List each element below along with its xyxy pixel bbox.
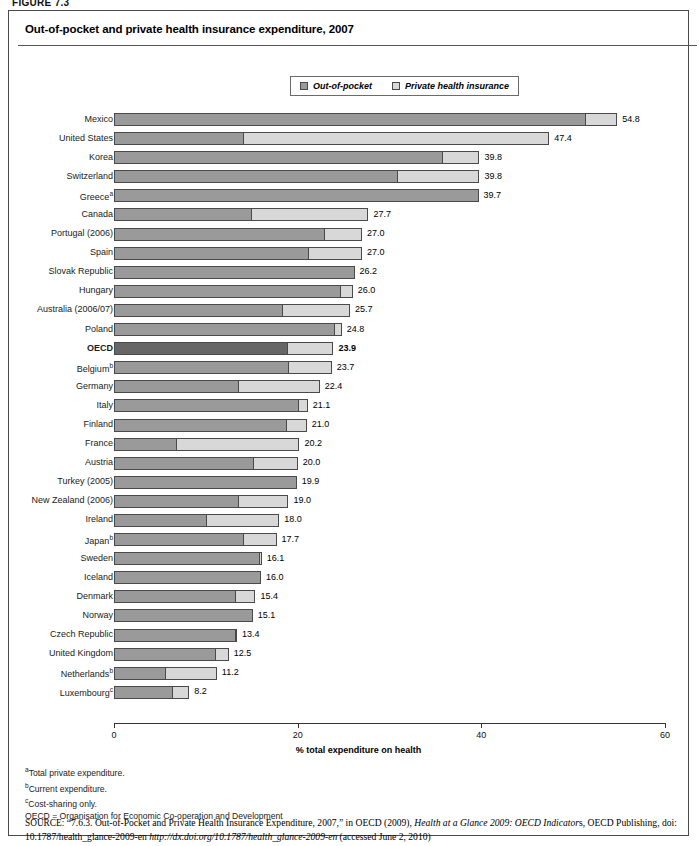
- bar-segment-private-health-insurance: [585, 113, 617, 126]
- category-label: OECD: [87, 343, 113, 353]
- category-label-text: Luxembourg: [60, 688, 110, 698]
- bar-segment-out-of-pocket: [114, 629, 235, 642]
- footnote-text: Current expenditure.: [29, 784, 107, 794]
- stacked-bar: [114, 323, 342, 336]
- bar-segment-out-of-pocket: [114, 304, 282, 317]
- category-label-text: Australia (2006/07): [37, 304, 113, 314]
- chart-row: Ireland18.0: [9, 512, 699, 531]
- bar-segment-private-health-insurance: [215, 648, 229, 661]
- stacked-bar: [114, 629, 237, 642]
- bar-segment-private-health-insurance: [165, 667, 217, 680]
- bar-segment-out-of-pocket: [114, 170, 397, 183]
- page-title: Out-of-pocket and private health insuran…: [25, 23, 354, 35]
- bar-segment-private-health-insurance: [288, 361, 331, 374]
- bar-segment-private-health-insurance: [308, 247, 362, 260]
- bar-value-label: 26.2: [360, 266, 378, 276]
- chart-row: Portugal (2006)27.0: [9, 226, 699, 245]
- chart-row: Austria20.0: [9, 455, 699, 474]
- bar-segment-private-health-insurance: [253, 457, 298, 470]
- category-label-text: Czech Republic: [50, 629, 113, 639]
- category-label-text: France: [85, 438, 113, 448]
- bar-segment-out-of-pocket: [114, 552, 259, 565]
- bar-segment-private-health-insurance: [287, 342, 334, 355]
- category-label: Ireland: [85, 514, 113, 524]
- category-label: Switzerland: [66, 171, 113, 181]
- category-label-text: Slovak Republic: [48, 266, 113, 276]
- chart-row: Canada27.7: [9, 206, 699, 225]
- stacked-bar: [114, 495, 288, 508]
- stacked-bar: [114, 667, 217, 680]
- x-axis-tick: [481, 723, 482, 728]
- x-axis-tick-label: 0: [111, 730, 116, 740]
- bar-value-label: 19.0: [293, 495, 311, 505]
- category-label: Turkey (2005): [57, 476, 113, 486]
- chart-row: United Kingdom12.5: [9, 646, 699, 665]
- bar-segment-private-health-insurance: [243, 533, 276, 546]
- bar-value-label: 27.7: [373, 209, 391, 219]
- bar-segment-private-health-insurance: [235, 590, 255, 603]
- chart-row: Italy21.1: [9, 397, 699, 416]
- bar-value-label: 16.1: [267, 553, 285, 563]
- chart-row: Iceland16.0: [9, 569, 699, 588]
- chart-row: Sweden16.1: [9, 550, 699, 569]
- stacked-bar: [114, 571, 261, 584]
- chart-row: Korea39.8: [9, 149, 699, 168]
- category-label: Finland: [83, 419, 113, 429]
- bar-value-label: 23.7: [337, 362, 355, 372]
- category-label-text: United States: [59, 133, 113, 143]
- category-label-text: Korea: [89, 152, 113, 162]
- bar-segment-private-health-insurance: [397, 170, 480, 183]
- bar-value-label: 17.7: [282, 534, 300, 544]
- category-label: Spain: [90, 247, 113, 257]
- category-label-text: Germany: [76, 381, 113, 391]
- x-axis-tick: [665, 723, 666, 728]
- bar-value-label: 15.1: [258, 610, 276, 620]
- bar-segment-private-health-insurance: [238, 380, 320, 393]
- bar-value-label: 21.1: [313, 400, 331, 410]
- bar-segment-out-of-pocket: [114, 323, 334, 336]
- category-label: New Zealand (2006): [31, 495, 113, 505]
- category-label-text: Greece: [80, 192, 110, 202]
- footnotes: aTotal private expenditure.bCurrent expe…: [25, 764, 685, 823]
- category-label: Czech Republic: [50, 629, 113, 639]
- chart-legend: Out-of-pocketPrivate health insurance: [290, 76, 519, 96]
- stacked-bar: [114, 399, 308, 412]
- chart-row: Hungary26.0: [9, 283, 699, 302]
- category-label: Norway: [82, 610, 113, 620]
- stacked-bar: [114, 438, 299, 451]
- category-label: Canada: [81, 209, 113, 219]
- category-label: Iceland: [84, 572, 113, 582]
- x-axis-tick-label: 60: [660, 730, 670, 740]
- bar-value-label: 13.4: [242, 629, 260, 639]
- category-label: Korea: [89, 152, 113, 162]
- bar-segment-out-of-pocket: [114, 113, 585, 126]
- stacked-bar: [114, 590, 255, 603]
- bar-segment-out-of-pocket: [114, 476, 297, 489]
- source-label: SOURCE:: [25, 818, 64, 828]
- category-label: United Kingdom: [49, 648, 113, 658]
- legend-label: Out-of-pocket: [313, 81, 372, 91]
- chart-row: Norway15.1: [9, 607, 699, 626]
- footnote-marker: c: [110, 686, 113, 693]
- category-label: Poland: [85, 324, 113, 334]
- chart-row: United States47.4: [9, 130, 699, 149]
- bar-segment-out-of-pocket: [114, 533, 243, 546]
- stacked-bar: [114, 170, 479, 183]
- chart-row: OECD23.9: [9, 340, 699, 359]
- source-title-italic: Health at a Glance 2009: OECD Indicator: [414, 817, 579, 828]
- x-axis-tick: [114, 723, 115, 728]
- chart-row: Poland24.8: [9, 321, 699, 340]
- category-label-text: Austria: [85, 457, 113, 467]
- bar-value-label: 11.2: [222, 667, 239, 677]
- x-axis-line: [114, 723, 665, 724]
- category-label-text: Sweden: [80, 553, 113, 563]
- chart-row: New Zealand (2006)19.0: [9, 493, 699, 512]
- chart-row: Slovak Republic26.2: [9, 264, 699, 283]
- source-part-3: (accessed June 2, 2010): [337, 831, 431, 842]
- source-citation: SOURCE: “7.6.3. Out-of-Pocket and Privat…: [25, 816, 690, 843]
- bar-value-label: 15.4: [260, 591, 278, 601]
- stacked-bar: [114, 151, 479, 164]
- bar-value-label: 39.8: [484, 152, 502, 162]
- bar-segment-private-health-insurance: [251, 208, 369, 221]
- bar-segment-out-of-pocket: [114, 228, 324, 241]
